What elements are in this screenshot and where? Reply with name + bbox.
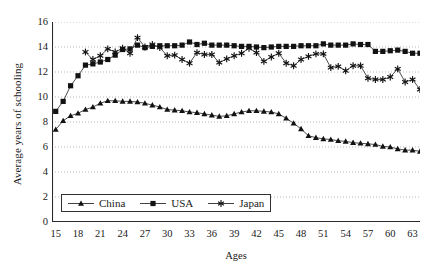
legend-label: USA [169,197,193,209]
x-tick-label: 54 [334,228,358,239]
x-tick-label: 33 [178,228,202,239]
x-tick-label: 48 [289,228,313,239]
legend-label: Japan [237,197,264,209]
x-tick-label: 18 [66,228,90,239]
triangle-marker-icon [68,198,94,209]
x-tick-label: 60 [378,228,402,239]
y-tick-label: 16 [22,17,48,27]
y-tick-label: 6 [22,142,48,152]
y-tick-label: 8 [22,117,48,127]
y-tick-label: 2 [22,192,48,202]
y-axis-tick-labels: 0246810121416 [20,22,48,222]
x-tick-label: 63 [401,228,425,239]
legend-item-china[interactable]: China [68,197,125,209]
x-tick-label: 39 [222,228,246,239]
y-tick-label: 0 [22,217,48,227]
x-axis-tick-labels: 1518212427303336394245485154576063 [52,228,420,244]
legend-item-japan[interactable]: Japan [208,197,264,209]
x-axis-title: Ages [52,250,420,261]
x-tick-label: 21 [88,228,112,239]
square-marker-icon [140,198,166,209]
x-tick-label: 57 [356,228,380,239]
chart-figure: Average years of schooling 0246810121416… [0,0,436,276]
x-tick-label: 36 [200,228,224,239]
x-tick-label: 27 [133,228,157,239]
legend-label: China [97,197,125,209]
y-tick-label: 14 [22,42,48,52]
x-tick-label: 24 [111,228,135,239]
x-tick-label: 45 [267,228,291,239]
chart-legend: ChinaUSAJapan [61,194,271,212]
x-tick-label: 15 [44,228,68,239]
y-tick-label: 4 [22,167,48,177]
y-tick-label: 12 [22,67,48,77]
asterisk-marker-icon [208,198,234,209]
x-tick-label: 30 [155,228,179,239]
series-china [53,98,420,154]
x-tick-label: 51 [311,228,335,239]
y-tick-label: 10 [22,92,48,102]
legend-item-usa[interactable]: USA [140,197,193,209]
x-tick-label: 42 [244,228,268,239]
chart-svg [52,22,420,222]
plot-area [52,22,420,222]
